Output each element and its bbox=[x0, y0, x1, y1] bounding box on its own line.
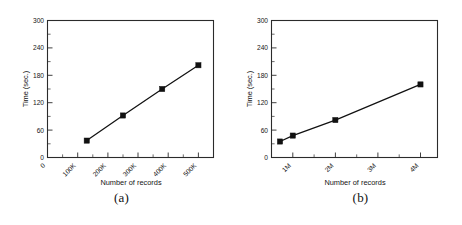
y-axis-title-b: Time (sec.) bbox=[245, 71, 254, 108]
data-point-marker bbox=[160, 86, 165, 91]
y-axis-title-a: Time (sec.) bbox=[21, 71, 30, 108]
data-point-marker bbox=[290, 133, 295, 138]
data-point-marker bbox=[196, 63, 201, 68]
y-tick-label-b-0: 0 bbox=[264, 154, 268, 161]
x-axis-title-a: Number of records bbox=[100, 178, 162, 187]
series-b-markers bbox=[277, 82, 423, 144]
y-tick-label-a-0: 0 bbox=[40, 154, 44, 161]
figure-two-panel-charts: 0 60 120 180 240 300 Time (sec.) bbox=[0, 0, 462, 225]
data-point-marker bbox=[84, 138, 89, 143]
y-tick-label-a-180: 180 bbox=[33, 72, 44, 79]
x-tick-label-a-200k: 200K bbox=[91, 161, 107, 177]
plot-frame-b bbox=[272, 21, 438, 158]
y-tick-label-b-120: 120 bbox=[257, 99, 268, 106]
data-point-marker bbox=[418, 82, 423, 87]
panel-caption-a: (a) bbox=[0, 190, 237, 206]
series-b-line bbox=[280, 84, 420, 141]
data-point-marker bbox=[333, 117, 338, 122]
y-axis-a: 0 60 120 180 240 300 bbox=[33, 17, 53, 161]
series-a-line bbox=[87, 65, 199, 140]
y-tick-label-a-240: 240 bbox=[33, 44, 44, 51]
x-tick-label-b-3m: 3M bbox=[366, 162, 377, 173]
x-tick-label-b-2m: 2M bbox=[323, 162, 334, 173]
panel-caption-b: (b) bbox=[231, 190, 462, 206]
x-axis-a: 0 100K 200K 300K 400K 500K bbox=[39, 153, 214, 178]
x-tick-label-b-4m: 4M bbox=[408, 162, 419, 173]
x-tick-label-a-400k: 400K bbox=[152, 161, 168, 177]
y-axis-b: 0 60 120 180 240 300 bbox=[257, 17, 277, 161]
y-tick-label-b-240: 240 bbox=[257, 44, 268, 51]
x-tick-label-a-100k: 100K bbox=[61, 161, 77, 177]
series-a bbox=[84, 63, 201, 144]
x-tick-label-a-0: 0 bbox=[39, 162, 47, 170]
y-tick-label-b-300: 300 bbox=[257, 17, 268, 24]
series-b bbox=[277, 82, 423, 144]
x-axis-title-b: Number of records bbox=[324, 178, 386, 187]
x-tick-label-a-500k: 500K bbox=[182, 161, 198, 177]
y-tick-label-b-180: 180 bbox=[257, 72, 268, 79]
y-tick-label-b-60: 60 bbox=[261, 127, 269, 134]
y-tick-label-a-60: 60 bbox=[37, 127, 45, 134]
plot-frame-a bbox=[48, 21, 214, 158]
y-tick-label-a-300: 300 bbox=[33, 17, 44, 24]
x-axis-b: 1M 2M 3M 4M bbox=[272, 153, 438, 174]
data-point-marker bbox=[277, 139, 282, 144]
chart-panel-a: 0 60 120 180 240 300 Time (sec.) bbox=[0, 0, 231, 225]
x-tick-label-b-1m: 1M bbox=[281, 162, 292, 173]
y-tick-label-a-120: 120 bbox=[33, 99, 44, 106]
data-point-marker bbox=[120, 113, 125, 118]
chart-panel-b: 0 60 120 180 240 300 Time (sec.) 1M bbox=[231, 0, 462, 225]
x-tick-label-a-300k: 300K bbox=[121, 161, 137, 177]
